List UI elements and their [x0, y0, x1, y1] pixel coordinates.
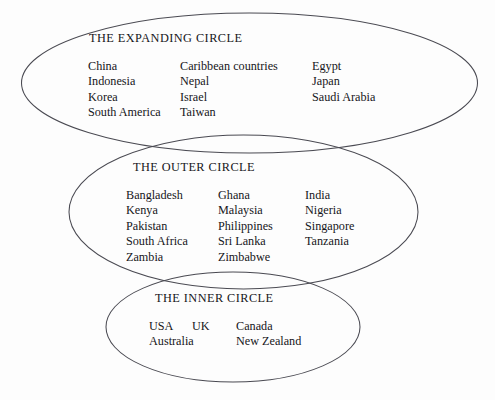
inner-column-3: Canada New Zealand	[236, 319, 326, 350]
country-item: Singapore	[305, 219, 385, 234]
expanding-column-3: Egypt Japan Saudi Arabia	[312, 59, 408, 105]
outer-column-2: Ghana Malaysia Philippines Sri Lanka Zim…	[218, 188, 305, 265]
country-item: Zambia	[126, 250, 218, 265]
country-item: Pakistan	[126, 219, 218, 234]
country-item: UK	[192, 319, 236, 334]
expanding-column-2: Caribbean countries Nepal Israel Taiwan	[180, 59, 312, 121]
country-item: South Africa	[126, 234, 218, 249]
country-item: South America	[88, 105, 180, 120]
country-item: Nigeria	[305, 203, 385, 218]
inner-circle-group: THE INNER CIRCLE USA Australia UK Canada…	[149, 291, 326, 350]
expanding-circle-group: THE EXPANDING CIRCLE China Indonesia Kor…	[88, 31, 408, 121]
country-item: Egypt	[312, 59, 408, 74]
country-item: Sri Lanka	[218, 234, 305, 249]
outer-circle-label: THE OUTER CIRCLE	[133, 160, 385, 175]
country-item: Bangladesh	[126, 188, 218, 203]
expanding-column-1: China Indonesia Korea South America	[88, 59, 180, 121]
country-item: USA	[149, 319, 192, 334]
expanding-circle-columns: China Indonesia Korea South America Cari…	[88, 59, 408, 121]
country-item: Canada	[236, 319, 326, 334]
country-item: Taiwan	[180, 105, 312, 120]
inner-column-2: UK	[192, 319, 236, 334]
inner-column-1: USA Australia	[149, 319, 192, 350]
country-item: Australia	[149, 334, 192, 349]
country-item: Japan	[312, 74, 408, 89]
country-item: China	[88, 59, 180, 74]
country-item: Kenya	[126, 203, 218, 218]
country-item: Korea	[88, 90, 180, 105]
outer-column-3: India Nigeria Singapore Tanzania	[305, 188, 385, 250]
country-item: Tanzania	[305, 234, 385, 249]
country-item: Caribbean countries	[180, 59, 312, 74]
country-item: Israel	[180, 90, 312, 105]
inner-circle-columns: USA Australia UK Canada New Zealand	[149, 319, 326, 350]
country-item: Philippines	[218, 219, 305, 234]
country-item: Saudi Arabia	[312, 90, 408, 105]
country-item: India	[305, 188, 385, 203]
outer-column-1: Bangladesh Kenya Pakistan South Africa Z…	[126, 188, 218, 265]
inner-circle-label: THE INNER CIRCLE	[155, 291, 326, 306]
outer-circle-group: THE OUTER CIRCLE Bangladesh Kenya Pakist…	[126, 160, 385, 265]
expanding-circle-label: THE EXPANDING CIRCLE	[89, 31, 408, 46]
country-item: Ghana	[218, 188, 305, 203]
country-item: Malaysia	[218, 203, 305, 218]
country-item: Indonesia	[88, 74, 180, 89]
outer-circle-columns: Bangladesh Kenya Pakistan South Africa Z…	[126, 188, 385, 265]
country-item: Nepal	[180, 74, 312, 89]
country-item: New Zealand	[236, 334, 326, 349]
three-circles-diagram: THE EXPANDING CIRCLE China Indonesia Kor…	[0, 0, 495, 400]
country-item: Zimbabwe	[218, 250, 305, 265]
